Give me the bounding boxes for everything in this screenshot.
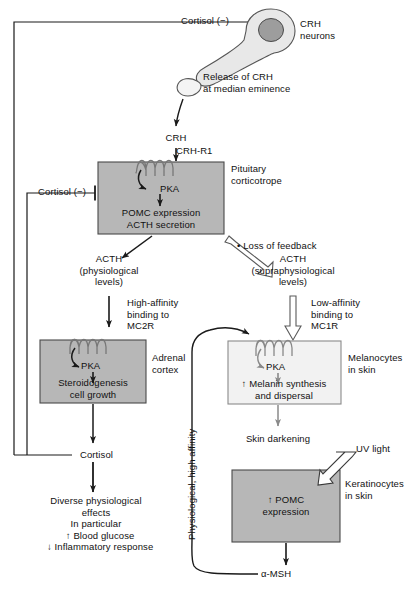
arrow-acth-to-mc1r: [285, 296, 301, 340]
cortisol-feedback-top-label: Cortisol (−): [181, 15, 229, 27]
adrenal-pka-label: PKA: [81, 360, 100, 372]
diverse-effects-label: Diverse physiological effects In particu…: [39, 495, 154, 553]
keratinocytes-in-skin-label: Keratinocytes in skin: [345, 478, 404, 501]
physiological-high-affinity-label: Physiological, high affinity: [186, 429, 198, 540]
acth-supraphysiological-label: ACTH (supraphysiological levels): [251, 253, 334, 288]
release-of-crh-label: Release of CRH at median eminence: [203, 71, 290, 94]
adrenal-cortex-label: Adrenal cortex: [152, 352, 185, 375]
acth-physiological-label: ACTH (physiological levels): [80, 253, 139, 288]
melanocytes-in-skin-label: Melanocytes in skin: [348, 352, 402, 375]
melanin-synthesis-label: ↑ Melanin synthesis and dispersal: [242, 378, 327, 401]
steroidogenesis-label: Steroidogenesis cell growth: [58, 377, 128, 400]
melanocyte-pka-label: PKA: [266, 361, 285, 373]
high-affinity-label: High-affinity binding to MC2R: [127, 297, 178, 332]
arrow-release-to-crh: [176, 99, 183, 126]
pomc-expression-skin-label: ↑ POMC expression: [263, 494, 310, 517]
low-affinity-label: Low-affinity binding to MC1R: [311, 297, 360, 332]
crh-label: CRH: [166, 132, 187, 144]
cortisol-feedback-mid-label: Cortisol (−): [38, 186, 86, 198]
pomc-acth-label: POMC expression ACTH secretion: [122, 207, 201, 230]
crh-neurons-label: CRH neurons: [300, 18, 335, 41]
pituitary-corticotrope-label: Pituitary corticotrope: [231, 163, 282, 186]
crh-r1-label: CRH-R1: [176, 145, 213, 157]
alpha-msh-label: α-MSH: [261, 568, 291, 580]
cortisol-label: Cortisol: [80, 449, 113, 461]
uv-light-label: UV light: [356, 443, 390, 455]
skin-darkening-label: Skin darkening: [246, 433, 310, 445]
pituitary-pka-label: PKA: [160, 183, 179, 195]
cortisol-feedback-mid-line: [27, 186, 95, 456]
loss-of-feedback-label: • Loss of feedback: [237, 240, 317, 252]
